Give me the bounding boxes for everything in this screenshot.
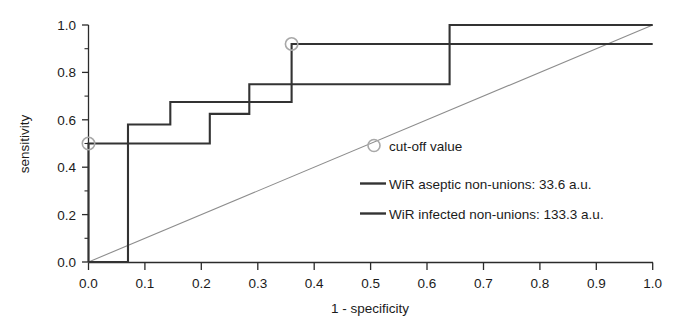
y-axis-tick-labels: 1.0 0.8 0.6 0.4 0.2 0.0 [57,18,76,270]
y-tick-label: 0.2 [57,208,76,223]
legend-label-aseptic: WiR aseptic non-unions: 33.6 a.u. [389,177,592,192]
x-tick-label: 0.4 [305,276,324,291]
x-tick-label: 0.6 [418,276,437,291]
x-axis-title: 1 - specificity [331,301,409,316]
roc-plot-svg: 1.0 0.8 0.6 0.4 0.2 0.0 0.0 0.1 0.2 0 [0,0,689,331]
y-tick-label: 0.8 [57,65,76,80]
legend-label-cutoff: cut-off value [389,139,462,154]
x-tick-label: 0.0 [79,276,98,291]
y-tick-label: 0.6 [57,113,76,128]
y-tick-label: 0.0 [57,255,76,270]
legend-label-infected: WiR infected non-unions: 133.3 a.u. [389,207,604,222]
x-tick-label: 0.2 [192,276,211,291]
y-tick-label: 0.4 [57,160,76,175]
roc-curve-infected [89,44,653,262]
x-tick-label: 0.5 [361,276,380,291]
legend-cutoff-circle-icon [368,140,380,152]
roc-curve-figure: 1.0 0.8 0.6 0.4 0.2 0.0 0.0 0.1 0.2 0 [0,0,689,331]
x-tick-label: 0.8 [531,276,550,291]
x-tick-label: 0.7 [474,276,493,291]
x-tick-label: 0.3 [248,276,267,291]
x-axis-ticks [89,263,653,271]
legend: cut-off value WiR aseptic non-unions: 33… [360,139,604,222]
x-tick-label: 0.9 [587,276,606,291]
x-axis-tick-labels: 0.0 0.1 0.2 0.3 0.4 0.5 0.6 0.7 0.8 0.9 … [79,276,662,291]
x-tick-label: 1.0 [643,276,662,291]
y-tick-label: 1.0 [57,18,76,33]
x-tick-label: 0.1 [136,276,155,291]
y-axis-title: sensitivity [17,114,32,173]
